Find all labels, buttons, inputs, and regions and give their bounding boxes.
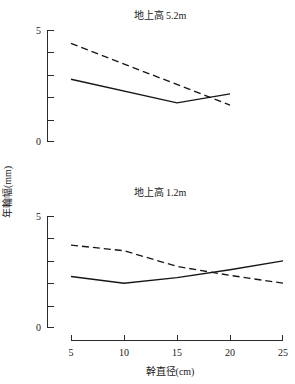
xtick-label-5: 5 — [69, 347, 74, 358]
x-axis-title: 幹直径(cm) — [146, 365, 195, 378]
xtick-label-25: 25 — [278, 347, 288, 358]
panel-top-series-solid — [71, 79, 230, 103]
xtick-label-15: 15 — [172, 347, 182, 358]
ring-width-figure: 地上高 5.2m 5 0 年輪幅(mm) 地上高 1.2m — [0, 0, 295, 384]
xtick-label-10: 10 — [119, 347, 129, 358]
panel-bottom-ytick-label-5: 5 — [36, 211, 41, 222]
xtick-label-20: 20 — [225, 347, 235, 358]
panel-bottom-series-solid — [71, 261, 283, 283]
chart-svg: 地上高 5.2m 5 0 年輪幅(mm) 地上高 1.2m — [0, 0, 295, 384]
panel-top-ytick-label-5: 5 — [36, 25, 41, 36]
panel-top-title: 地上高 5.2m — [134, 9, 187, 21]
panel-bottom-ytick-label-0: 0 — [36, 322, 41, 333]
panel-bottom: 地上高 1.2m 5 0 5 10 15 20 25 — [36, 186, 288, 358]
panel-top-series-dashed — [71, 43, 230, 105]
panel-bottom-title: 地上高 1.2m — [134, 186, 187, 198]
y-axis-title: 年輪幅(mm) — [1, 166, 14, 218]
panel-top: 地上高 5.2m 5 0 — [36, 9, 230, 147]
panel-top-ytick-label-0: 0 — [36, 136, 41, 147]
